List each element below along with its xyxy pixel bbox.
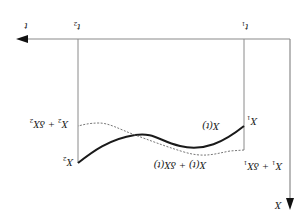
variation-diagram: t t2 t1 X1 X2 X(t) X(t) + δX(t) X1 + δX1…	[0, 0, 304, 218]
t-axis-label: t	[24, 21, 28, 33]
t1-label: t1	[241, 20, 248, 34]
x1-label: X1	[246, 114, 258, 128]
x2-label: X2	[62, 155, 74, 169]
curve-varied-label: X(t) + δX(t)	[154, 159, 208, 172]
t-axis	[16, 35, 290, 43]
x-axis-arrow-icon	[286, 198, 294, 210]
t2-label: t2	[73, 20, 80, 34]
x1-varied-label: X1 + δX1	[243, 159, 283, 173]
x-axis-label: X	[273, 200, 282, 212]
curve-x-of-t-label: X(t)	[202, 120, 220, 133]
x-axis	[286, 39, 294, 210]
x2-varied-label: X2 + δX2	[29, 117, 69, 131]
t-axis-arrow-icon	[16, 35, 28, 43]
